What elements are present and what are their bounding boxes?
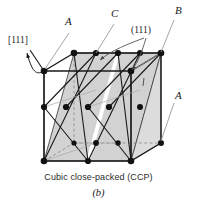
atom-face-center (41, 104, 47, 110)
atom-face-center (115, 50, 121, 56)
layer-label-b: B (175, 5, 182, 16)
layer-label-a-right: A (175, 90, 182, 101)
leader-b (161, 20, 174, 52)
atom-corner (158, 50, 165, 57)
atom-face-center (63, 104, 69, 110)
atom-face-center (93, 140, 99, 146)
figure-caption: Cubic close-packed (CCP) (0, 172, 197, 182)
atom-face-center (85, 104, 91, 110)
layer-label-a-top: A (65, 16, 72, 27)
atom-face-center (137, 104, 143, 110)
layer-label-c: C (111, 8, 118, 19)
plane-label-111: (111) (131, 26, 151, 36)
atom-corner (71, 140, 76, 145)
atom-face-center (106, 104, 112, 110)
atom-corner (71, 50, 78, 57)
atom-face-center (85, 158, 91, 164)
leader-a-right (161, 103, 174, 141)
direction-label-111: [111] (8, 36, 28, 46)
atom-corner (128, 158, 135, 165)
leader-c (96, 24, 114, 53)
ccp-unit-cell-figure: [111] A C (111) B A Cubic close-packed (… (0, 0, 197, 203)
atom-face-center (115, 140, 120, 145)
atom-corner (41, 158, 48, 165)
figure-subcaption: (b) (0, 187, 197, 198)
